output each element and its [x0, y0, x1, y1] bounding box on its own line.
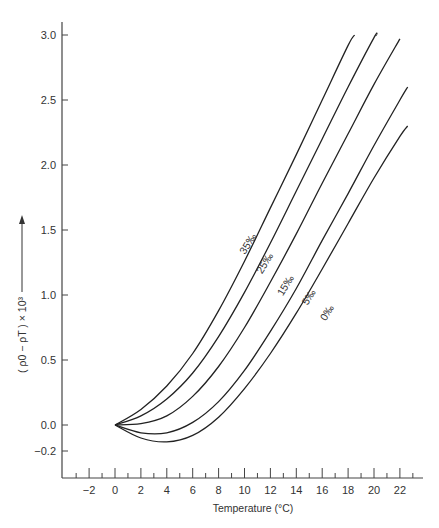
y-axis-title-group: ( ρ0 − ρT ) × 10³ — [16, 215, 28, 373]
x-tick-label: 22 — [394, 484, 406, 496]
curve-labels: 35‰25‰15‰5‰0‰ — [237, 230, 337, 322]
y-tick-label: 1.0 — [41, 289, 56, 301]
curve-label: 35‰ — [237, 230, 259, 256]
x-tick-label: 6 — [190, 484, 196, 496]
x-tick-label: 16 — [316, 484, 328, 496]
y-axis-arrow-icon — [19, 215, 25, 224]
x-tick-label: 14 — [290, 484, 302, 496]
x-tick-label: 8 — [216, 484, 222, 496]
x-tick-label: 18 — [342, 484, 354, 496]
curve-35-permil — [115, 35, 355, 425]
density-temperature-chart: −0.20.00.51.01.52.02.53.0−20246810121416… — [0, 0, 439, 528]
axes: −0.20.00.51.01.52.02.53.0−20246810121416… — [34, 22, 423, 496]
x-axis-title: Temperature (°C) — [213, 502, 294, 514]
y-axis-title: ( ρ0 − ρT ) × 10³ — [16, 297, 28, 373]
x-tick-label: 20 — [368, 484, 380, 496]
x-tick-label: 2 — [138, 484, 144, 496]
y-tick-label: 2.5 — [41, 94, 56, 106]
curve-label: 0‰ — [317, 302, 336, 323]
x-tick-label: 4 — [164, 484, 170, 496]
y-tick-label: 2.0 — [41, 159, 56, 171]
y-tick-label: 0.0 — [41, 419, 56, 431]
curve-25-permil — [115, 33, 377, 425]
curve-15-permil — [115, 39, 400, 425]
x-tick-label: −2 — [83, 484, 96, 496]
y-tick-label: 0.5 — [41, 354, 56, 366]
curve-label: 25‰ — [253, 250, 275, 276]
curves — [115, 33, 408, 442]
x-tick-label: 0 — [112, 484, 118, 496]
y-tick-label: 1.5 — [41, 224, 56, 236]
y-tick-label: −0.2 — [34, 445, 56, 457]
y-tick-label: 3.0 — [41, 29, 56, 41]
x-tick-label: 10 — [238, 484, 250, 496]
x-tick-label: 12 — [264, 484, 276, 496]
